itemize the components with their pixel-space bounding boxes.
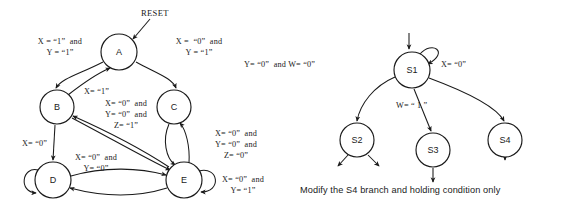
state-label-s2: S2	[351, 135, 362, 145]
state-label-s3: S3	[427, 145, 438, 155]
edge-label-s1-to-s2: Y= “0” and W= “0”	[244, 59, 315, 70]
edge-label-b-to-e: X= “0” and Y= “0” and Z= “1”	[90, 98, 162, 131]
reset-label: RESET	[141, 8, 169, 18]
state-label-s4: S4	[499, 135, 510, 145]
state-label-d: D	[50, 175, 57, 185]
reset-arrow	[133, 19, 150, 39]
state-label-c: C	[171, 102, 178, 112]
exit-arrow-s2-left	[338, 155, 348, 166]
edge-label-a-to-b: X = “1” and Y = “1”	[14, 36, 106, 58]
state-label-a: A	[116, 47, 122, 57]
edge-s1-to-s2	[357, 77, 395, 121]
edge-a-to-c	[136, 62, 176, 88]
state-label-b: B	[54, 102, 60, 112]
edge-label-a-to-c: X = “0” and Y = “1”	[149, 36, 249, 58]
edge-e-to-d	[70, 188, 167, 195]
state-label-e: E	[181, 175, 187, 185]
edge-label-d-to-e: X= “0” and Y= “0”	[62, 152, 130, 174]
diagram-vector-layer: A B C D E	[0, 0, 565, 215]
edge-label-b-to-a: X= “1”	[84, 86, 109, 97]
edge-e-to-c	[180, 123, 189, 163]
exit-arrow-s2-right	[368, 155, 379, 166]
edge-b-to-d	[53, 125, 55, 160]
edge-label-s1-to-s4: X= “0”	[441, 59, 466, 70]
edge-label-self-loop-e: X= “0” and Y= “1”	[208, 174, 278, 196]
figure-canvas: A B C D E	[0, 0, 565, 215]
state-label-s1: S1	[406, 65, 417, 75]
edge-label-c-to-e: X= “0” and Y= “0” and Z= “0”	[198, 128, 274, 161]
figure-caption: Modify the S4 branch and holding conditi…	[300, 185, 500, 195]
edge-s1-to-s4	[429, 78, 504, 121]
right-diagram-nodes: S1 S2 S3 S4	[340, 52, 522, 167]
edge-c-to-e	[165, 124, 175, 165]
edge-label-b-to-d: X= “0”	[22, 138, 47, 149]
edge-label-s1-to-s3: W= “ 1 ”	[396, 100, 427, 111]
